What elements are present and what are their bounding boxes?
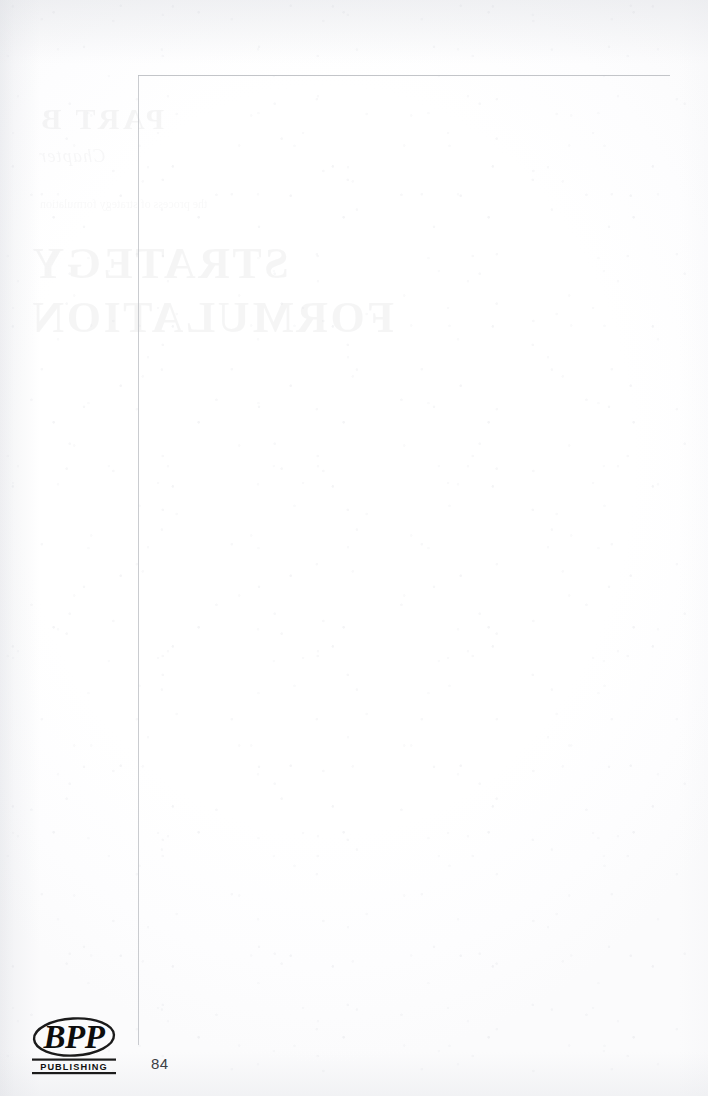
svg-text:PUBLISHING: PUBLISHING: [40, 1062, 108, 1072]
bpp-logo-icon: BPP PUBLISHING: [31, 1016, 119, 1080]
svg-text:BPP: BPP: [43, 1019, 106, 1055]
scanned-page: PART B Chapter the process of strategy f…: [0, 0, 708, 1096]
bpp-publishing-logo: BPP PUBLISHING: [31, 1016, 119, 1080]
paper-background: [0, 0, 708, 1096]
page-number: 84: [151, 1055, 169, 1072]
left-margin-rule: [138, 75, 139, 1045]
top-margin-rule: [138, 75, 670, 76]
